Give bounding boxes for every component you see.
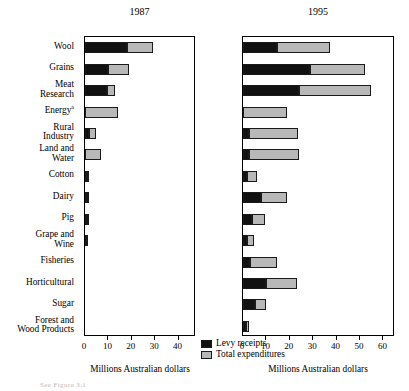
bar-row <box>243 299 393 310</box>
bar-row <box>85 128 194 139</box>
bar-segment-total-expenditures <box>249 149 299 160</box>
axis-tick <box>178 336 179 340</box>
bar-row <box>243 257 393 268</box>
axis-tick <box>289 336 290 340</box>
bar-segment-total-expenditures <box>255 299 267 310</box>
bar-segment-levy-receipts <box>243 214 252 225</box>
bar-segment-levy-receipts <box>243 278 266 289</box>
category-label: Pig <box>0 213 74 223</box>
bar-row <box>85 42 194 53</box>
category-label: Energya <box>0 106 74 116</box>
bar-segment-total-expenditures <box>89 128 96 139</box>
axis-tick <box>336 336 337 340</box>
x-axis-1995: 0102030405060 <box>242 336 394 360</box>
axis-tick-label: 40 <box>168 341 188 351</box>
bar-segment-total-expenditures <box>249 128 298 139</box>
bar-segment-total-expenditures <box>261 192 287 203</box>
axis-tick <box>154 336 155 340</box>
axis-tick <box>359 336 360 340</box>
bar-row <box>243 149 393 160</box>
axis-tick-label: 20 <box>121 341 141 351</box>
bar-row <box>85 214 194 225</box>
bar-segment-levy-receipts <box>243 42 277 53</box>
x-axis-1987: 010203040 <box>84 336 195 360</box>
axis-tick-label: 10 <box>255 341 275 351</box>
category-label: Land andWater <box>0 144 74 163</box>
bar-row <box>85 149 194 160</box>
bar-segment-total-expenditures <box>250 257 277 268</box>
bar-segment-levy-receipts <box>243 64 310 75</box>
bar-segment-levy-receipts <box>243 192 261 203</box>
bar-row <box>85 64 194 75</box>
legend-swatch-total-icon <box>201 351 212 359</box>
bar-row <box>243 235 393 246</box>
bar-segment-levy-receipts <box>85 85 107 96</box>
axis-tick <box>312 336 313 340</box>
bar-row <box>243 42 393 53</box>
chart-panel-1995: Levy receipts Total expenditures <box>242 36 394 336</box>
bar-row <box>85 171 194 182</box>
bar-segment-levy-receipts <box>243 299 255 310</box>
category-label: Forest andWood Products <box>0 316 74 335</box>
category-label: Fisheries <box>0 256 74 266</box>
category-label: Sugar <box>0 299 74 309</box>
bar-row <box>243 321 393 332</box>
bar-segment-total-expenditures <box>247 171 257 182</box>
category-label: Dairy <box>0 192 74 202</box>
panel-title-1995: 1995 <box>242 6 394 17</box>
x-axis-title-1987: Millions Australian dollars <box>60 364 220 374</box>
bar-segment-total-expenditures <box>266 278 296 289</box>
bar-segment-total-expenditures <box>107 85 115 96</box>
bar-segment-total-expenditures <box>247 235 254 246</box>
bar-segment-total-expenditures <box>243 107 287 118</box>
bar-row <box>243 128 393 139</box>
bar-row <box>243 214 393 225</box>
axis-tick-label: 50 <box>349 341 369 351</box>
plot-area-1987 <box>85 37 194 335</box>
axis-tick-label: 0 <box>232 341 252 351</box>
bar-segment-total-expenditures <box>87 171 89 182</box>
bar-row <box>85 235 194 246</box>
axis-tick-label: 30 <box>302 341 322 351</box>
bar-segment-levy-receipts <box>85 64 108 75</box>
axis-tick <box>107 336 108 340</box>
category-label: Grape andWine <box>0 230 74 249</box>
bar-row <box>243 85 393 96</box>
category-label: Horticultural <box>0 278 74 288</box>
bar-row <box>243 107 393 118</box>
plot-area-1995 <box>243 37 393 335</box>
axis-tick-label: 40 <box>326 341 346 351</box>
category-label: Grains <box>0 63 74 73</box>
axis-tick <box>382 336 383 340</box>
bar-segment-total-expenditures <box>86 235 88 246</box>
x-axis-title-1995: Millions Australian dollars <box>220 364 409 374</box>
axis-tick-label: 60 <box>372 341 392 351</box>
bar-segment-total-expenditures <box>85 149 101 160</box>
category-label: MeatResearch <box>0 80 74 99</box>
bar-row <box>243 64 393 75</box>
footnote-marker: a <box>71 104 74 110</box>
figure-footnote: See Figure 3.1 <box>40 381 86 389</box>
bar-segment-total-expenditures <box>108 64 128 75</box>
bar-segment-total-expenditures <box>299 85 370 96</box>
bar-row <box>85 192 194 203</box>
legend-swatch-levy-icon <box>201 340 212 348</box>
axis-tick-label: 10 <box>97 341 117 351</box>
bar-segment-levy-receipts <box>85 42 127 53</box>
bar-segment-levy-receipts <box>243 85 299 96</box>
axis-tick <box>265 336 266 340</box>
bar-segment-total-expenditures <box>87 214 89 225</box>
panel-title-1987: 1987 <box>84 6 195 17</box>
bar-row <box>85 85 194 96</box>
category-label: Cotton <box>0 170 74 180</box>
bar-row <box>243 171 393 182</box>
bar-row <box>243 278 393 289</box>
axis-tick <box>131 336 132 340</box>
bar-segment-total-expenditures <box>277 42 330 53</box>
axis-tick-label: 30 <box>144 341 164 351</box>
chart-panel-1987: Levy receipts Total expenditures <box>84 36 195 336</box>
bar-row <box>85 107 194 118</box>
category-axis-labels: WoolGrainsMeatResearchEnergyaRuralIndust… <box>0 36 78 336</box>
bar-segment-total-expenditures <box>246 321 249 332</box>
bar-row <box>243 192 393 203</box>
